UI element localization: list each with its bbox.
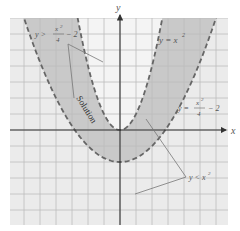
svg-text:− 2: − 2 bbox=[66, 30, 77, 39]
svg-text:− 2: − 2 bbox=[208, 104, 219, 113]
svg-text:y < x: y < x bbox=[188, 173, 206, 182]
svg-text:2: 2 bbox=[182, 32, 185, 38]
y-axis-label: y bbox=[115, 2, 121, 13]
inequality-graph: x y y > x 2 4 − 2 y = x 2 y = x 2 4 − 2 … bbox=[0, 0, 240, 231]
svg-text:4: 4 bbox=[56, 36, 60, 44]
svg-text:y = x: y = x bbox=[158, 35, 178, 45]
svg-text:4: 4 bbox=[197, 110, 201, 118]
svg-text:y >: y > bbox=[34, 30, 46, 39]
svg-text:y =: y = bbox=[177, 104, 189, 113]
x-axis-label: x bbox=[230, 125, 236, 136]
